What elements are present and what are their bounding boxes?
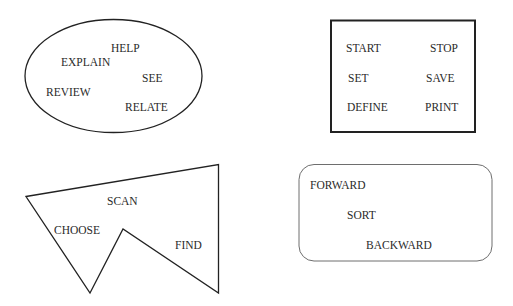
word-set: SET — [348, 72, 368, 84]
word-forward: FORWARD — [310, 179, 366, 191]
word-help: HELP — [111, 42, 140, 54]
word-see: SEE — [142, 72, 162, 84]
word-relate: RELATE — [125, 101, 168, 113]
word-explain: EXPLAIN — [61, 56, 111, 68]
diagram-canvas: HELP EXPLAIN SEE REVIEW RELATE START STO… — [0, 0, 513, 306]
ellipse-shape — [25, 20, 202, 133]
polygon-group: SCAN CHOOSE FIND — [26, 165, 219, 294]
word-print: PRINT — [425, 101, 458, 113]
word-scan: SCAN — [107, 195, 138, 207]
word-choose: CHOOSE — [54, 224, 100, 236]
word-stop: STOP — [430, 42, 458, 54]
word-sort: SORT — [347, 209, 376, 221]
word-define: DEFINE — [347, 101, 388, 113]
rounded-rectangle-group: FORWARD SORT BACKWARD — [299, 165, 492, 262]
word-backward: BACKWARD — [366, 239, 432, 251]
word-save: SAVE — [426, 72, 455, 84]
word-find: FIND — [175, 239, 202, 251]
rectangle-group: START STOP SET SAVE DEFINE PRINT — [331, 21, 475, 133]
ellipse-group: HELP EXPLAIN SEE REVIEW RELATE — [25, 20, 202, 133]
word-review: REVIEW — [46, 86, 91, 98]
word-start: START — [346, 42, 381, 54]
